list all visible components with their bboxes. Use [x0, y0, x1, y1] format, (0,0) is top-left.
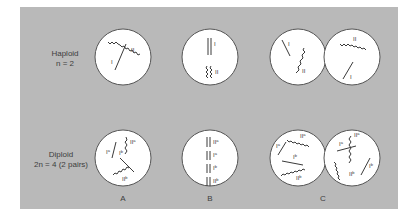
- cell-diagrams: I II I II I II II I Ia IIa Ib IIb IIa Ia…: [0, 0, 418, 219]
- label-II: II: [131, 47, 135, 53]
- label-II: II: [353, 36, 357, 42]
- cell-c1-haploid: [270, 29, 326, 85]
- cell-c2-diploid: [324, 130, 380, 186]
- label-II: II: [215, 69, 219, 75]
- cell-c2-haploid: [324, 29, 380, 85]
- label-II: II: [302, 68, 306, 74]
- cell-a-haploid: [95, 29, 151, 85]
